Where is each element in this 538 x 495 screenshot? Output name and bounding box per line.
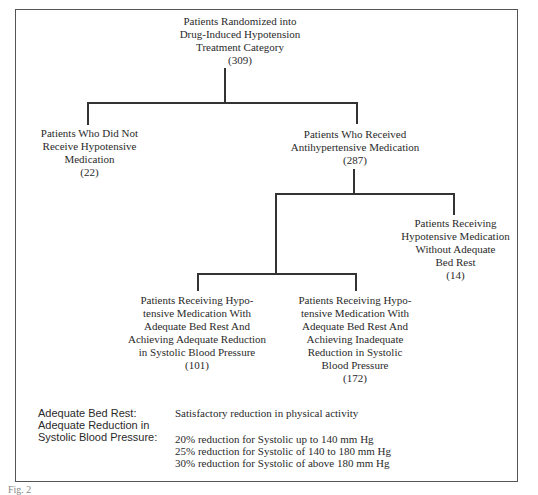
- node-line: Bed Rest: [393, 256, 518, 269]
- node-count: (172): [290, 372, 420, 385]
- node-line: Reduction in Systolic: [290, 346, 420, 359]
- legend-reduction-value: 30% reduction for Systolic of above 180 …: [175, 457, 389, 470]
- legend-reduction-label-1: Adequate Reduction in: [38, 419, 149, 432]
- node-line: Drug-Induced Hypotension: [160, 28, 320, 41]
- node-line: Treatment Category: [160, 41, 320, 54]
- node-line: Medication: [27, 153, 152, 166]
- node-line: Blood Pressure: [290, 359, 420, 372]
- node-line: Adequate Bed Rest And: [122, 320, 272, 333]
- node-line: tensive Medication With: [122, 307, 272, 320]
- node-line: Patients Who Received: [280, 128, 430, 141]
- node-count: (101): [122, 359, 272, 372]
- node-line: Patients Receiving: [393, 217, 518, 230]
- node-received-medication: Patients Who Received Antihypertensive M…: [280, 128, 430, 167]
- node-line: Patients Receiving Hypo-: [290, 294, 420, 307]
- connector: [87, 102, 357, 104]
- connector: [355, 273, 357, 291]
- node-adequate-reduction: Patients Receiving Hypo- tensive Medicat…: [122, 294, 272, 372]
- connector: [197, 273, 199, 291]
- connector: [356, 102, 358, 124]
- node-without-bed-rest: Patients Receiving Hypotensive Medicatio…: [393, 217, 518, 282]
- node-line: in Systolic Blood Pressure: [122, 346, 272, 359]
- node-line: Patients Receiving Hypo-: [122, 294, 272, 307]
- connector: [275, 193, 277, 274]
- node-line: Receive Hypotensive: [27, 140, 152, 153]
- node-count: (309): [160, 54, 320, 67]
- connector: [197, 273, 356, 275]
- node-line: Hypotensive Medication: [393, 230, 518, 243]
- legend-reduction-value: 25% reduction for Systolic of 140 to 180…: [175, 445, 391, 458]
- node-inadequate-reduction: Patients Receiving Hypo- tensive Medicat…: [290, 294, 420, 385]
- legend-reduction-value: 20% reduction for Systolic up to 140 mm …: [175, 433, 374, 446]
- legend-bed-rest-value: Satisfactory reduction in physical activ…: [175, 407, 358, 420]
- legend-reduction-label-2: Systolic Blood Pressure:: [38, 431, 157, 444]
- connector: [87, 102, 89, 125]
- connector: [353, 169, 355, 194]
- connector: [453, 193, 455, 215]
- node-count: (287): [280, 154, 430, 167]
- node-line: Patients Who Did Not: [27, 127, 152, 140]
- node-line: Without Adequate: [393, 243, 518, 256]
- node-line: Patients Randomized into: [160, 15, 320, 28]
- node-count: (22): [27, 166, 152, 179]
- node-line: Adequate Bed Rest And: [290, 320, 420, 333]
- connector: [275, 193, 454, 195]
- node-count: (14): [393, 269, 518, 282]
- node-no-medication: Patients Who Did Not Receive Hypotensive…: [27, 127, 152, 179]
- node-line: Antihypertensive Medication: [280, 141, 430, 154]
- figure-caption: Fig. 2: [8, 484, 31, 495]
- node-line: Achieving Inadequate: [290, 333, 420, 346]
- node-line: Achieving Adequate Reduction: [122, 333, 272, 346]
- node-randomized: Patients Randomized into Drug-Induced Hy…: [160, 15, 320, 67]
- node-line: tensive Medication With: [290, 307, 420, 320]
- connector: [224, 68, 226, 103]
- legend-bed-rest-label: Adequate Bed Rest:: [38, 407, 136, 420]
